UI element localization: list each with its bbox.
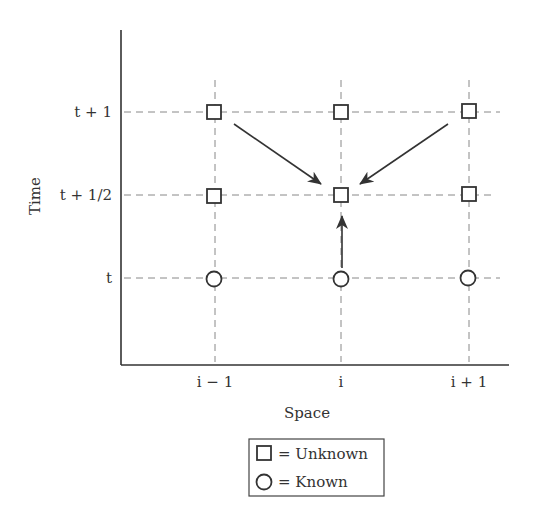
legend: = Unknown = Known xyxy=(249,439,384,496)
square-node-icon xyxy=(207,189,221,203)
circle-node-icon xyxy=(461,271,476,286)
circle-node-icon xyxy=(207,272,222,287)
y-tick-t-plus-half: t + 1/2 xyxy=(60,186,112,204)
arrow-from-left-top xyxy=(234,124,321,184)
x-tick-i-plus-1: i + 1 xyxy=(451,373,487,391)
y-tick-t-plus-1: t + 1 xyxy=(74,103,112,121)
square-node-icon xyxy=(334,105,348,119)
legend-unknown-label: = Unknown xyxy=(278,445,368,463)
y-tick-t: t xyxy=(106,269,112,287)
square-node-icon xyxy=(207,105,221,119)
circle-node-icon xyxy=(334,272,349,287)
fdm-stencil-diagram: t + 1 t + 1/2 t Time i − 1 i i + 1 Space… xyxy=(0,0,541,520)
arrow-from-right-top xyxy=(360,124,448,184)
legend-known-label: = Known xyxy=(278,473,348,491)
x-axis-label: Space xyxy=(284,404,330,422)
square-node-icon xyxy=(334,188,348,202)
grid-lines xyxy=(124,80,500,362)
legend-circle-icon xyxy=(257,475,272,490)
x-tick-i: i xyxy=(339,373,344,391)
legend-square-icon xyxy=(257,446,271,460)
square-node-icon xyxy=(462,187,476,201)
x-tick-i-minus-1: i − 1 xyxy=(197,373,233,391)
y-axis-label: Time xyxy=(26,177,44,215)
square-node-icon xyxy=(462,104,476,118)
